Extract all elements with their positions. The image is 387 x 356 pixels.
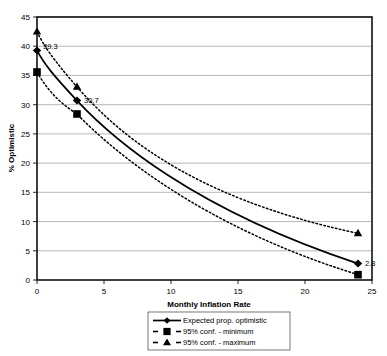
y-tick-label: 0 [26, 276, 31, 285]
inflation-optimism-line-chart: 45 40 35 30 25 20 15 10 5 0 0 5 10 15 20 [0, 0, 387, 356]
y-tick-label: 5 [26, 247, 31, 256]
chart-legend: Expected prop. optimistic 95% conf. - mi… [148, 312, 290, 350]
y-axis-title: % Optimistic [7, 123, 16, 172]
marker-square-icon [163, 328, 170, 335]
x-tick-label: 20 [301, 287, 310, 296]
x-tick-label: 25 [368, 287, 377, 296]
marker-square [33, 68, 41, 76]
legend-label: 95% conf. - minimum [183, 327, 253, 336]
marker-square [354, 271, 362, 279]
y-tick-label: 20 [21, 159, 30, 168]
y-tick-label: 10 [21, 218, 30, 227]
marker-square [73, 110, 81, 118]
data-label-start: 39.3 [43, 42, 58, 51]
x-tick-label: 5 [102, 287, 107, 296]
chart-container: 45 40 35 30 25 20 15 10 5 0 0 5 10 15 20 [0, 0, 387, 356]
x-tick-label: 0 [35, 287, 40, 296]
x-tick-label: 10 [167, 287, 176, 296]
legend-item-conf-minimum[interactable]: 95% conf. - minimum [153, 327, 253, 336]
data-label-mid: 30.7 [84, 96, 99, 105]
y-tick-label: 35 [21, 71, 30, 80]
y-tick-label: 30 [21, 101, 30, 110]
x-tick-label: 15 [234, 287, 243, 296]
y-tick-label: 25 [21, 130, 30, 139]
y-tick-label: 45 [21, 13, 30, 22]
x-axis-title: Monthly Inflation Rate [167, 300, 251, 309]
data-label-end: 2.8 [365, 259, 375, 268]
legend-label: 95% conf. - maximum [183, 338, 256, 347]
y-tick-label: 15 [21, 188, 30, 197]
y-tick-label: 40 [21, 42, 30, 51]
legend-label: Expected prop. optimistic [183, 316, 267, 325]
